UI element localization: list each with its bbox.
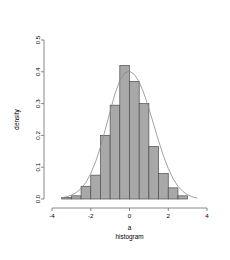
histogram-bar [149, 147, 159, 199]
histogram-bar [130, 81, 140, 199]
histogram-bar [159, 174, 169, 199]
histogram-plot: 0.00.10.20.30.40.5 -4-2024 density ahist… [0, 0, 230, 260]
y-axis-tick-label: 0.1 [34, 162, 41, 171]
histogram-bar [139, 104, 149, 199]
histogram-bar [168, 188, 178, 199]
y-axis-title-text: density [13, 109, 21, 130]
y-axis-tick-label: 0.3 [34, 99, 41, 108]
y-axis-tick-label: 0.5 [34, 35, 41, 44]
histogram-bar [71, 196, 81, 199]
histogram-bar [178, 196, 188, 199]
y-axis-tick-label: 0.2 [34, 131, 41, 140]
histogram-bar [100, 135, 110, 199]
x-axis-title-line: a [128, 224, 132, 231]
histogram-bar [81, 186, 91, 199]
x-axis-tick-label: 2 [167, 212, 171, 219]
y-axis-tick-label: 0.0 [34, 194, 41, 203]
y-axis-tick-label: 0.4 [34, 67, 41, 76]
histogram-bar [110, 105, 120, 199]
x-axis-title-line: histogram [115, 233, 143, 241]
y-axis-title: density [13, 109, 21, 130]
histogram-bar [91, 175, 101, 199]
x-axis-tick-label: 0 [128, 212, 132, 219]
chart-container: Normal distribution 0.00.10.20.30.40.5 -… [0, 0, 230, 260]
histogram-bar [120, 65, 130, 199]
x-axis-tick-label: -2 [88, 212, 94, 219]
x-axis-tick-label: -4 [49, 212, 55, 219]
x-axis-tick-label: 4 [205, 212, 209, 219]
